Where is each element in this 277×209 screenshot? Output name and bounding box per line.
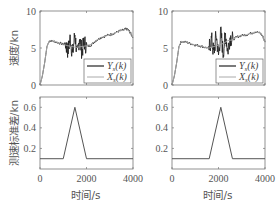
xtick-label: 0 xyxy=(38,173,43,184)
series-std xyxy=(172,107,265,158)
axes-bottom-right: 0.20.40.6020004000 xyxy=(156,97,276,184)
ytick-label: 10 xyxy=(26,6,36,17)
xtick-label: 0 xyxy=(170,173,175,184)
ytick-label: 0.6 xyxy=(156,102,169,113)
ytick-label: 0.6 xyxy=(24,102,37,113)
legend: Ys(k)Xs(k) xyxy=(216,59,263,84)
ytick-label: 0 xyxy=(163,80,168,91)
ytick-label: 0.2 xyxy=(24,143,37,154)
axes-top-left: 0510Ys(k)Xs(k) xyxy=(26,6,133,91)
xlabel-left: 时间/s xyxy=(71,189,100,201)
xlabel-right: 时间/s xyxy=(203,189,232,201)
ytick-label: 0 xyxy=(31,80,36,91)
ytick-label: 0.4 xyxy=(156,122,169,133)
ylabel-std: 测速标准差/kn xyxy=(8,100,20,166)
xtick-label: 4000 xyxy=(255,173,275,184)
xtick-label: 2000 xyxy=(77,173,97,184)
series-std xyxy=(40,107,133,158)
figure: 速度/kn 测速标准差/kn 0510Ys(k)Xs(k)0510Ys(k)Xs… xyxy=(0,0,277,209)
legend: Ys(k)Xs(k) xyxy=(84,59,131,84)
xtick-label: 2000 xyxy=(209,173,229,184)
xtick-label: 4000 xyxy=(123,173,143,184)
axes-bottom-left: 0.20.40.6020004000 xyxy=(24,97,144,184)
axes-top-right: 0510Ys(k)Xs(k) xyxy=(158,6,265,91)
ytick-label: 0.2 xyxy=(156,143,169,154)
ylabel-speed: 速度/kn xyxy=(8,30,20,66)
ytick-label: 0.4 xyxy=(24,122,37,133)
ytick-label: 5 xyxy=(163,43,168,54)
ytick-label: 10 xyxy=(158,6,168,17)
ytick-label: 5 xyxy=(31,43,36,54)
